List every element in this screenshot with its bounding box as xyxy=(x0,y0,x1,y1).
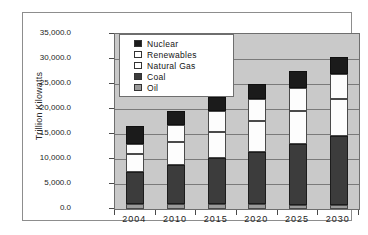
bar-segment-renewables[interactable] xyxy=(126,144,144,154)
legend-item-label: Natural Gas xyxy=(147,61,196,71)
bar-segment-coal[interactable] xyxy=(167,165,185,205)
legend-item-label: Nuclear xyxy=(147,39,178,49)
bar-segment-natural-gas[interactable] xyxy=(167,142,185,165)
bar-segment-renewables[interactable] xyxy=(167,125,185,143)
y-axis-tick-label: 5,000.0 xyxy=(5,178,71,187)
bar-segment-oil[interactable] xyxy=(167,204,185,209)
bar-stack[interactable] xyxy=(330,34,348,209)
bar-segment-oil[interactable] xyxy=(330,205,348,209)
legend-swatch-natural-gas-icon xyxy=(134,62,142,69)
legend-item[interactable]: Oil xyxy=(134,82,229,93)
legend-item[interactable]: Renewables xyxy=(134,49,229,60)
bar-segment-natural-gas[interactable] xyxy=(289,111,307,144)
legend-swatch-renewables-icon xyxy=(134,51,142,58)
bar-segment-coal[interactable] xyxy=(126,172,144,204)
bar-segment-oil[interactable] xyxy=(208,204,226,209)
bar-segment-nuclear[interactable] xyxy=(126,126,144,145)
bar-segment-nuclear[interactable] xyxy=(289,71,307,88)
bar-segment-coal[interactable] xyxy=(330,136,348,206)
legend-swatch-coal-icon xyxy=(134,73,142,80)
legend-item[interactable]: Nuclear xyxy=(134,38,229,49)
legend-item-label: Oil xyxy=(147,83,158,93)
bar-segment-nuclear[interactable] xyxy=(248,84,266,100)
legend-item-label: Renewables xyxy=(147,50,197,60)
bar-segment-nuclear[interactable] xyxy=(208,97,226,111)
y-axis-tick-label: 15,000.0 xyxy=(5,128,71,137)
x-axis-tick-mark xyxy=(195,210,196,215)
bar-segment-oil[interactable] xyxy=(289,205,307,210)
x-axis-tick-mark xyxy=(277,210,278,215)
y-axis-tick-label: 10,000.0 xyxy=(5,153,71,162)
legend-swatch-oil-icon xyxy=(134,84,142,91)
bar-segment-nuclear[interactable] xyxy=(330,57,348,74)
bar-stack[interactable] xyxy=(248,34,266,209)
y-axis-tick-label: 25,000.0 xyxy=(5,78,71,87)
legend-item-label: Coal xyxy=(147,72,166,82)
bar-stack[interactable] xyxy=(289,34,307,209)
bar-segment-renewables[interactable] xyxy=(208,111,226,133)
x-axis-tick-mark xyxy=(358,210,359,215)
y-axis-tick-label: 30,000.0 xyxy=(5,53,71,62)
bar-segment-natural-gas[interactable] xyxy=(126,154,144,172)
x-axis-tick-mark xyxy=(236,210,237,215)
bar-segment-natural-gas[interactable] xyxy=(248,121,266,152)
x-axis-tick-mark xyxy=(155,210,156,215)
bar-segment-renewables[interactable] xyxy=(248,99,266,121)
x-axis-tick-label: 2030 xyxy=(308,214,368,224)
bar-segment-natural-gas[interactable] xyxy=(208,132,226,158)
chart-legend: NuclearRenewablesNatural GasCoalOil xyxy=(119,34,234,97)
x-axis-tick-mark xyxy=(317,210,318,215)
chart-frame: Trillion Kilowatts 0.05,000.010,000.015,… xyxy=(22,12,352,221)
bar-segment-natural-gas[interactable] xyxy=(330,99,348,136)
bar-segment-oil[interactable] xyxy=(126,204,144,210)
y-axis-tick-label: 35,000.0 xyxy=(5,28,71,37)
legend-item[interactable]: Natural Gas xyxy=(134,60,229,71)
bar-segment-oil[interactable] xyxy=(248,204,266,209)
y-axis-tick-label: 0.0 xyxy=(5,203,71,212)
bar-segment-coal[interactable] xyxy=(289,144,307,205)
chart-figure: Trillion Kilowatts 0.05,000.010,000.015,… xyxy=(0,0,368,235)
bar-segment-nuclear[interactable] xyxy=(167,111,185,125)
bar-segment-coal[interactable] xyxy=(208,158,226,205)
legend-item[interactable]: Coal xyxy=(134,71,229,82)
bar-segment-coal[interactable] xyxy=(248,152,266,205)
bar-segment-renewables[interactable] xyxy=(330,74,348,100)
x-axis-tick-mark xyxy=(114,210,115,215)
bar-segment-renewables[interactable] xyxy=(289,88,307,111)
legend-swatch-nuclear-icon xyxy=(134,40,142,47)
y-axis-tick-label: 20,000.0 xyxy=(5,103,71,112)
